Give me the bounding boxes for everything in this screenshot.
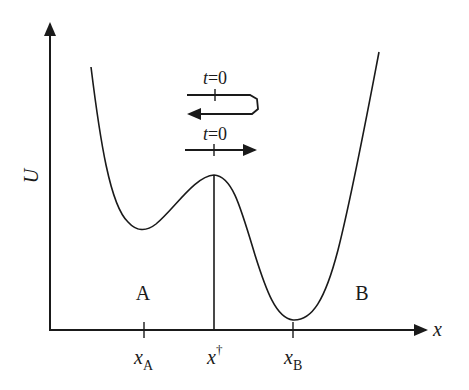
tick-label-x-dagger: x† <box>206 342 223 368</box>
x-axis-label: x <box>432 318 442 340</box>
recrossing-trajectory: t=0 <box>187 68 258 114</box>
well-label-B: B <box>355 282 368 304</box>
recrossing-arrow <box>187 95 258 114</box>
tick-label-xA: xA <box>133 346 154 373</box>
potential-energy-diagram: U x xA x† xB A B t=0 t=0 <box>0 0 469 390</box>
tick-label-xB: xB <box>283 346 302 373</box>
recrossing-time-label: t=0 <box>203 68 227 88</box>
well-label-A: A <box>136 282 151 304</box>
y-axis-label: U <box>20 167 42 183</box>
potential-energy-curve <box>91 52 379 320</box>
direct-time-label: t=0 <box>203 124 227 144</box>
direct-trajectory: t=0 <box>185 124 255 156</box>
